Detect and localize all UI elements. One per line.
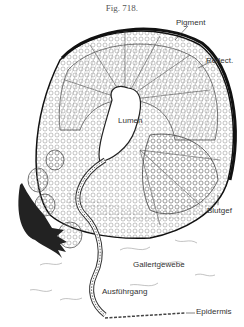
anatomical-illustration [0,0,244,327]
label-blutgef: Blutgef [207,206,232,215]
label-reflect: Reflect. [206,56,233,65]
epidermis-line [105,313,185,318]
label-ausfuhrgang: Ausführgang [102,287,147,296]
label-epidermis: Epidermis [196,307,232,316]
label-pigment: Pigment [176,18,205,27]
label-lumen: Lumen [118,116,142,125]
label-gallertgewebe: Gallertgewebe [133,260,185,269]
